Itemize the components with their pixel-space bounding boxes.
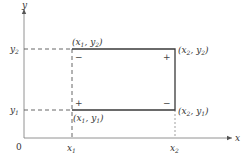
- rectangle-coordinate-diagram: y x 0 y2 y1 x1 x2 (x1, y2) (x2, y2) (x1,…: [0, 0, 244, 155]
- corner-label-top-left: (x1, y2): [72, 37, 103, 48]
- origin-label: 0: [16, 142, 22, 152]
- x2-tick-label: x2: [170, 143, 179, 154]
- x-axis-label: x: [235, 133, 240, 143]
- y-axis-label: y: [21, 0, 28, 10]
- corner-label-bottom-right: (x2, y1): [178, 106, 209, 117]
- x1-tick-label: x1: [67, 143, 76, 154]
- sign-bottom-left: +: [75, 98, 83, 108]
- corner-label-bottom-left: (x1, y1): [73, 113, 104, 124]
- sign-top-right: +: [163, 52, 171, 62]
- sign-top-left: −: [75, 52, 83, 62]
- sign-bottom-right: −: [163, 98, 171, 108]
- corner-label-top-right: (x2, y2): [178, 45, 209, 56]
- y2-tick-label: y2: [9, 44, 19, 55]
- rectangle-outline: [72, 49, 175, 110]
- y1-tick-label: y1: [9, 105, 19, 116]
